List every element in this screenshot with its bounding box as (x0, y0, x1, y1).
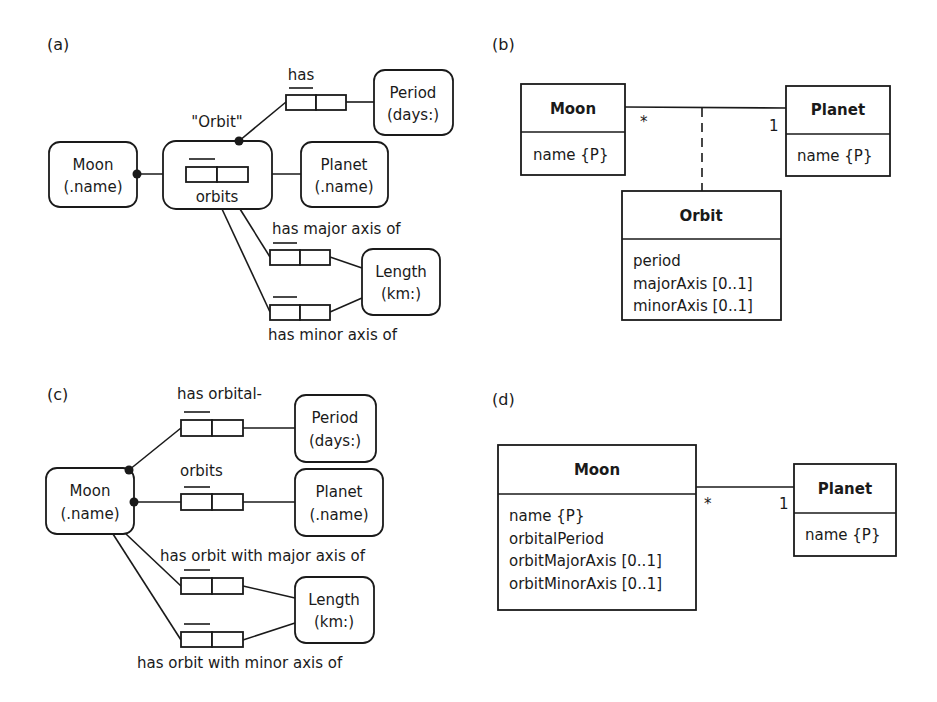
entity-planet-refmode: (.name) (309, 506, 368, 524)
fact-type-minor-axis[interactable] (270, 297, 330, 320)
class-moon-attr: name {P} (533, 146, 608, 164)
panel-b-label: (b) (492, 35, 515, 54)
entity-moon-name: Moon (73, 156, 114, 174)
class-moon-attr-name: name {P} (509, 507, 584, 525)
mandatory-role-dot (235, 137, 244, 146)
panel-d-label: (d) (492, 390, 515, 409)
class-moon-attr-orbit-minor-axis: orbitMinorAxis [0..1] (509, 575, 662, 593)
objectified-orbit-name: "Orbit" (191, 113, 242, 131)
entity-planet-refmode: (.name) (314, 178, 373, 196)
class-orbit-attr-period: period (633, 252, 681, 270)
multiplicity-moon: * (640, 113, 648, 131)
panel-c-label: (c) (47, 385, 68, 404)
panel-a: (a) Moon (.name) "Orbit" orbits (47, 35, 453, 344)
fact-type-period-label: has orbital- (177, 385, 262, 403)
entity-length-unit: (km:) (314, 613, 354, 631)
class-orbit-attr-minor-axis: minorAxis [0..1] (633, 297, 753, 315)
entity-length[interactable]: Length (km:) (295, 577, 374, 643)
entity-period-unit: (days:) (387, 106, 439, 124)
entity-moon-name: Moon (70, 482, 111, 500)
entity-length-name: Length (375, 263, 427, 281)
entity-period[interactable]: Period (days:) (374, 70, 453, 135)
fact-type-major-axis[interactable] (270, 243, 330, 265)
entity-length-name: Length (308, 591, 360, 609)
fact-type-minor-axis-label: has minor axis of (268, 326, 398, 344)
entity-period-name: Period (390, 84, 437, 102)
class-orbit-name: Orbit (679, 207, 722, 225)
fact-type-major-axis-label: has major axis of (272, 220, 401, 238)
mandatory-role-dot (130, 498, 139, 507)
entity-planet[interactable]: Planet (.name) (301, 142, 388, 207)
major-length-connector (330, 257, 362, 268)
fact-type-minor-axis-label: has orbit with minor axis of (137, 654, 343, 672)
mandatory-role-dot (125, 466, 134, 475)
fact-type-orbits-label: orbits (180, 462, 223, 480)
class-planet[interactable]: Planet name {P} (786, 86, 890, 176)
fact-type-has-label: has (288, 66, 315, 84)
multiplicity-planet: 1 (769, 117, 779, 135)
entity-moon-refmode: (.name) (60, 505, 119, 523)
fact-type-has-period[interactable] (286, 88, 346, 110)
entity-planet[interactable]: Planet (.name) (295, 469, 383, 536)
class-orbit-attr-major-axis: majorAxis [0..1] (633, 275, 753, 293)
minor-length-connector (243, 623, 295, 640)
class-moon[interactable]: Moon name {P} orbitalPeriod orbitMajorAx… (498, 445, 696, 610)
class-planet-name: Planet (818, 480, 872, 498)
class-moon[interactable]: Moon name {P} (521, 84, 625, 175)
multiplicity-planet: 1 (779, 495, 789, 513)
entity-period-name: Period (312, 409, 359, 427)
panel-d: (d) * 1 Moon name {P} orbitalPeriod orbi… (492, 390, 896, 610)
class-planet-attr: name {P} (805, 526, 880, 544)
mandatory-role-dot (133, 170, 142, 179)
entity-moon[interactable]: Moon (.name) (46, 468, 134, 534)
fact-type-orbits[interactable] (181, 487, 243, 510)
fact-type-orbits-label: orbits (196, 188, 239, 206)
class-planet-attr: name {P} (797, 147, 872, 165)
panel-a-label: (a) (47, 35, 69, 54)
multiplicity-moon: * (704, 495, 712, 513)
fact-type-major-axis[interactable] (181, 570, 243, 594)
entity-period-unit: (days:) (309, 432, 361, 450)
class-moon-name: Moon (574, 461, 620, 479)
entity-planet-name: Planet (320, 156, 367, 174)
class-planet-name: Planet (811, 101, 865, 119)
minor-length-connector (330, 298, 362, 312)
entity-moon-refmode: (.name) (63, 178, 122, 196)
class-moon-name: Moon (550, 100, 596, 118)
panel-b: (b) * 1 Moon name {P} Planet name {P} Or… (492, 35, 890, 320)
class-planet[interactable]: Planet name {P} (794, 464, 896, 556)
entity-length[interactable]: Length (km:) (362, 249, 440, 315)
class-moon-attr-orbital-period: orbitalPeriod (509, 530, 604, 548)
entity-planet-name: Planet (315, 483, 362, 501)
orbit-major-connector (240, 209, 270, 257)
orbit-has-connector (239, 102, 286, 141)
major-length-connector (243, 586, 295, 598)
fact-type-orbital-period[interactable] (181, 412, 243, 436)
class-moon-attr-orbit-major-axis: orbitMajorAxis [0..1] (509, 552, 662, 570)
entity-moon[interactable]: Moon (.name) (49, 142, 137, 207)
association-line (625, 107, 786, 108)
fact-type-minor-axis[interactable] (181, 624, 243, 647)
entity-period[interactable]: Period (days:) (295, 395, 376, 462)
panel-c: (c) Moon (.name) has orbital- Period ( (46, 385, 383, 672)
class-orbit[interactable]: Orbit period majorAxis [0..1] minorAxis … (622, 191, 781, 320)
entity-length-unit: (km:) (381, 285, 421, 303)
fact-type-major-axis-label: has orbit with major axis of (160, 547, 366, 565)
moon-period-fact-connector (129, 428, 181, 470)
orbit-minor-connector (222, 209, 270, 312)
